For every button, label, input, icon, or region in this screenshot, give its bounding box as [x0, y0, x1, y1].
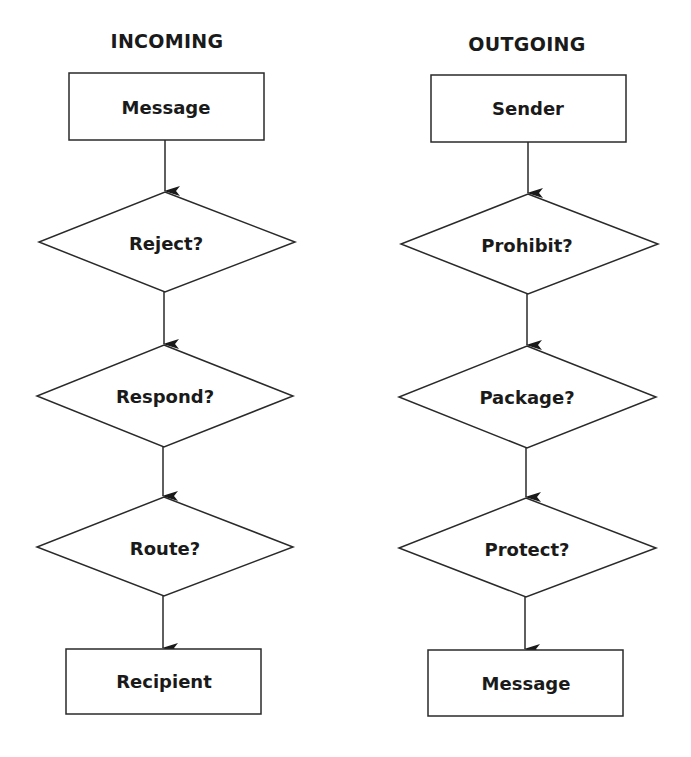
incoming-decision-2-label: Respond?: [116, 386, 214, 407]
outgoing-title: OUTGOING: [468, 33, 585, 55]
incoming-decision-1-label: Reject?: [129, 233, 203, 254]
outgoing-start-label: Sender: [492, 98, 564, 119]
outgoing-end-label: Message: [482, 673, 571, 694]
incoming-start-label: Message: [122, 97, 211, 118]
outgoing-decision-2-label: Package?: [479, 387, 574, 408]
outgoing-decision-1-label: Prohibit?: [481, 235, 573, 256]
incoming-end-label: Recipient: [116, 671, 212, 692]
flowchart-canvas: [0, 0, 691, 757]
incoming-title: INCOMING: [111, 30, 224, 52]
outgoing-decision-3-label: Protect?: [485, 539, 570, 560]
incoming-decision-3-label: Route?: [130, 538, 200, 559]
